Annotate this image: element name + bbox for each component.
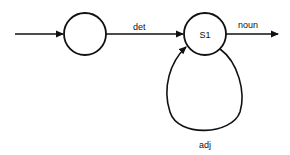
transition-adj-loop xyxy=(167,47,242,130)
transition-adj-label: adj xyxy=(199,140,211,150)
state-s1-label: S1 xyxy=(199,30,210,40)
transition-noun-label: noun xyxy=(238,20,258,30)
transition-det-label: det xyxy=(133,22,146,32)
state-start xyxy=(64,13,106,55)
fsa-diagram: det S1 noun adj xyxy=(0,0,290,155)
